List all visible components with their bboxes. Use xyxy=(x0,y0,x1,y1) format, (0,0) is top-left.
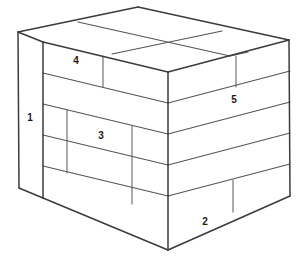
edge-vert-back-left xyxy=(18,32,19,188)
figure-container: 1 2 3 4 5 xyxy=(0,0,305,262)
edge-vert-right xyxy=(289,40,290,196)
block-label-1: 1 xyxy=(27,112,33,123)
brick-cube-diagram: 1 2 3 4 5 xyxy=(0,0,305,262)
block-label-5: 5 xyxy=(231,94,237,105)
left-front-face-fill xyxy=(43,42,168,250)
block-label-4: 4 xyxy=(73,55,79,66)
block-label-3: 3 xyxy=(98,130,104,141)
block-label-2: 2 xyxy=(202,216,208,227)
right-front-face-fill xyxy=(168,40,290,250)
